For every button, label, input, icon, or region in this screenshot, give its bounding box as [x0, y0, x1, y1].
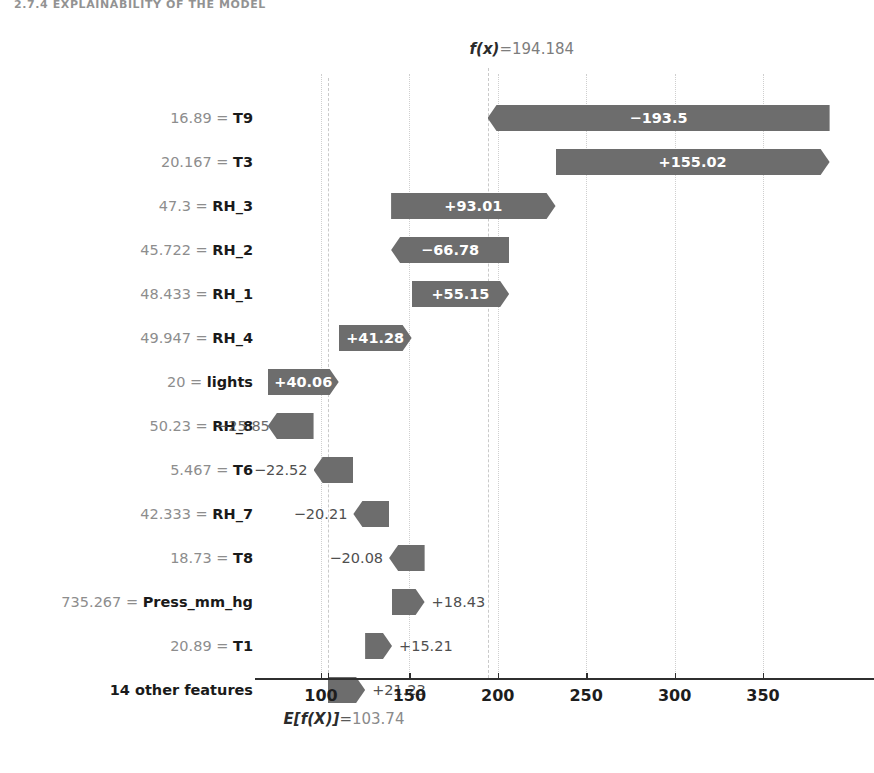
bar-value-label-T1: +15.21	[399, 633, 453, 659]
fx-annotation: f(x)=194.184	[470, 40, 575, 58]
feature-value: 50.23 =	[149, 418, 212, 434]
feature-label-14 other features: 14 other features	[0, 668, 253, 712]
feature-label-T9: 16.89 = T9	[0, 96, 253, 140]
bar-value-label-RH_3: +93.01	[391, 193, 555, 219]
bar-value-label-RH_1: +55.15	[412, 281, 510, 307]
bar-value-label-RH_4: +41.28	[339, 325, 412, 351]
gridline-200	[498, 74, 500, 678]
fx-value: 194.184	[512, 40, 574, 58]
feature-value: 20 =	[167, 374, 207, 390]
gridline-150	[409, 74, 411, 678]
feature-label-RH_4: 49.947 = RH_4	[0, 316, 253, 360]
feature-name: RH_3	[212, 198, 253, 214]
x-tick-label-100: 100	[304, 686, 337, 705]
feature-value: 735.267 =	[61, 594, 142, 610]
x-axis-line	[255, 678, 874, 680]
feature-value: 5.467 =	[170, 462, 233, 478]
feature-name: T8	[233, 550, 253, 566]
feature-label-RH_7: 42.333 = RH_7	[0, 492, 253, 536]
bar-value-label-T3: +155.02	[556, 149, 830, 175]
feature-name: T1	[233, 638, 253, 654]
feature-name: RH_7	[212, 506, 253, 522]
bar-value-label-T8: −20.08	[323, 545, 383, 571]
shap-waterfall-figure: 2.7.4 EXPLAINABILITY OF THE MODEL 16.89 …	[0, 0, 874, 773]
waterfall-bar-T8[interactable]	[389, 545, 425, 571]
feature-value: 20.167 =	[161, 154, 233, 170]
feature-label-Press_mm_hg: 735.267 = Press_mm_hg	[0, 580, 253, 624]
x-tick-350	[763, 673, 764, 679]
feature-label-RH_1: 48.433 = RH_1	[0, 272, 253, 316]
bar-value-label-RH_7: −20.21	[287, 501, 347, 527]
feature-value: 16.89 =	[170, 110, 233, 126]
feature-name: RH_1	[212, 286, 253, 302]
feature-label-T1: 20.89 = T1	[0, 624, 253, 668]
feature-label-lights: 20 = lights	[0, 360, 253, 404]
bar-value-label-lights: +40.06	[268, 369, 339, 395]
feature-label-RH_2: 45.722 = RH_2	[0, 228, 253, 272]
bar-value-label-T9: −193.5	[488, 105, 830, 131]
bar-value-label-RH_8: −25.85	[210, 413, 270, 439]
feature-name: T3	[233, 154, 253, 170]
feature-value: 20.89 =	[170, 638, 233, 654]
feature-label-RH_3: 47.3 = RH_3	[0, 184, 253, 228]
x-tick-100	[321, 673, 322, 679]
efx-value: 103.74	[352, 710, 405, 728]
efx-equals: =	[339, 710, 352, 728]
fx-math-symbol: f(x)	[470, 40, 500, 58]
feature-name: T9	[233, 110, 253, 126]
x-tick-label-150: 150	[393, 686, 426, 705]
waterfall-bar-Press_mm_hg[interactable]	[392, 589, 425, 615]
feature-value: 49.947 =	[140, 330, 212, 346]
bar-value-label-RH_2: −66.78	[391, 237, 509, 263]
feature-value: 42.333 =	[140, 506, 212, 522]
x-tick-label-250: 250	[569, 686, 602, 705]
x-tick-base-value	[328, 673, 329, 679]
feature-label-T6: 5.467 = T6	[0, 448, 253, 492]
efx-annotation: E[f(X)]=103.74	[284, 710, 405, 728]
feature-value: 48.433 =	[140, 286, 212, 302]
x-tick-label-200: 200	[481, 686, 514, 705]
waterfall-bar-T1[interactable]	[365, 633, 392, 659]
plot-area: 16.89 = T9−193.520.167 = T3+155.0247.3 =…	[0, 0, 874, 773]
feature-value: 18.73 =	[170, 550, 233, 566]
x-tick-label-350: 350	[746, 686, 779, 705]
bar-value-label-T6: −22.52	[248, 457, 308, 483]
waterfall-bar-RH_8[interactable]	[268, 413, 314, 439]
waterfall-bar-T6[interactable]	[314, 457, 354, 483]
x-tick-150	[409, 673, 410, 679]
bar-value-label-Press_mm_hg: +18.43	[432, 589, 486, 615]
fx-reference-line	[488, 68, 490, 678]
feature-name: lights	[207, 374, 253, 390]
fx-equals: =	[499, 40, 512, 58]
feature-value: 47.3 =	[159, 198, 213, 214]
feature-label-T8: 18.73 = T8	[0, 536, 253, 580]
waterfall-bar-RH_7[interactable]	[353, 501, 389, 527]
x-tick-label-300: 300	[658, 686, 691, 705]
x-tick-300	[675, 673, 676, 679]
feature-name: Press_mm_hg	[143, 594, 253, 610]
feature-label-T3: 20.167 = T3	[0, 140, 253, 184]
feature-value: 45.722 =	[140, 242, 212, 258]
feature-name: RH_2	[212, 242, 253, 258]
efx-math-symbol: E[f(X)]	[284, 710, 340, 728]
feature-name: RH_4	[212, 330, 253, 346]
x-tick-200	[498, 673, 499, 679]
x-tick-250	[586, 673, 587, 679]
